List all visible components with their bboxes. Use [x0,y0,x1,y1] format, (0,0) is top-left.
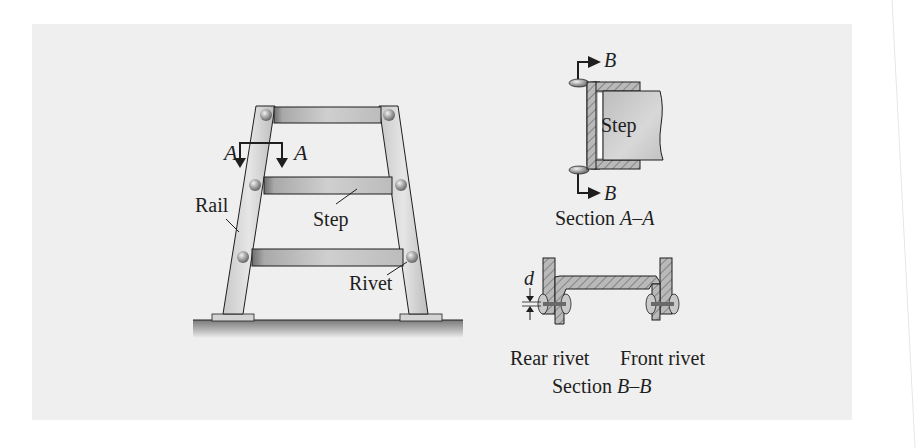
rear-rivet-shank [543,302,566,306]
right-foot [400,314,442,321]
arrow-right-icon [588,56,601,68]
rivet-icon [249,179,261,191]
front-rivet-label: Front rivet [620,347,705,369]
arrow-down-icon [526,296,534,302]
left-foot [212,314,254,321]
section-b-top-mark: B [604,49,616,71]
left-rail [223,106,275,314]
rivet-icon [260,109,272,121]
ladder-view: A A Rail Step Rivet [193,106,463,338]
section-a-view: B Step B Section A–A [555,49,663,229]
section-a-step-label: Step [601,114,637,137]
middle-step [264,177,392,194]
dimension-d-label: d [524,267,535,289]
rail-label: Rail [195,194,229,216]
section-a-left-mark: A [222,140,238,165]
step-label: Step [313,208,349,231]
arrow-up-icon [526,306,534,312]
ladder-figure: A A Rail Step Rivet B Step B [0,0,921,448]
ground [193,320,463,338]
arrow-right-icon [588,187,601,199]
front-rivet-shank [651,302,674,306]
section-a-right-mark: A [292,140,308,165]
bottom-step [252,249,403,266]
section-b-caption: Section B–B [552,375,651,397]
rear-rivet-label: Rear rivet [510,347,590,369]
page-edge [892,0,915,448]
rivet-icon [383,109,395,121]
section-b-bottom-mark: B [604,182,616,204]
section-a-caption: Section A–A [555,207,655,229]
rivet-icon [395,179,407,191]
rivet-icon [237,251,249,263]
rivet-icon [406,251,418,263]
section-b-view: d Rear rivet Front rivet Section B–B [510,258,705,397]
top-step [274,107,381,123]
rivet-label: Rivet [349,272,393,294]
arrow-down-icon [276,158,288,168]
